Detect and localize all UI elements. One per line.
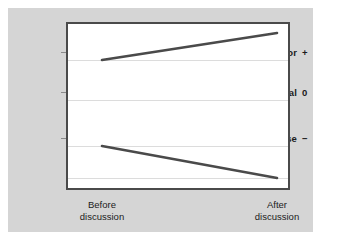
series-line-opposing-group [102,146,277,178]
y-axis-symbol-neutral: 0 [302,87,313,98]
x-axis-label-after-line2: discussion [232,211,322,223]
trend-lines-svg [68,24,288,188]
plot-area [66,22,290,190]
x-axis-label-after-line1: After [232,199,322,211]
x-axis-label-before-line2: discussion [57,211,147,223]
plot-inner [68,24,288,188]
y-axis-symbol-oppose: − [302,133,313,144]
y-axis-symbol-favor: + [302,47,313,58]
x-axis-label-before: Before discussion [57,199,147,222]
x-axis-label-after: After discussion [232,199,322,222]
series-line-favoring-group [102,33,277,60]
x-axis-label-before-line1: Before [57,199,147,211]
